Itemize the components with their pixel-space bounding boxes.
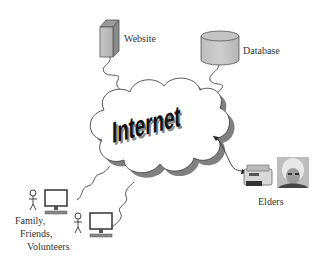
family-connection-2 xyxy=(112,182,134,227)
computer-icon xyxy=(45,190,67,214)
elders-label: Elders xyxy=(258,196,284,208)
family-label: Family, xyxy=(15,215,45,227)
person-icon xyxy=(29,190,37,210)
person-icon xyxy=(74,213,82,233)
volunteers-label: Volunteers xyxy=(27,241,70,253)
database-label: Database xyxy=(243,45,280,57)
friends-label: Friends, xyxy=(20,228,53,240)
website-label: Website xyxy=(124,33,156,45)
computer-icon xyxy=(90,213,112,237)
website-connection xyxy=(103,57,126,94)
server-tower-icon xyxy=(100,20,119,57)
elder-photo xyxy=(277,157,309,188)
network-diagram: Internet Internet xyxy=(0,0,322,264)
database-cylinder-icon xyxy=(201,31,239,65)
printer-icon xyxy=(244,165,272,186)
family-connection-1 xyxy=(77,166,110,200)
